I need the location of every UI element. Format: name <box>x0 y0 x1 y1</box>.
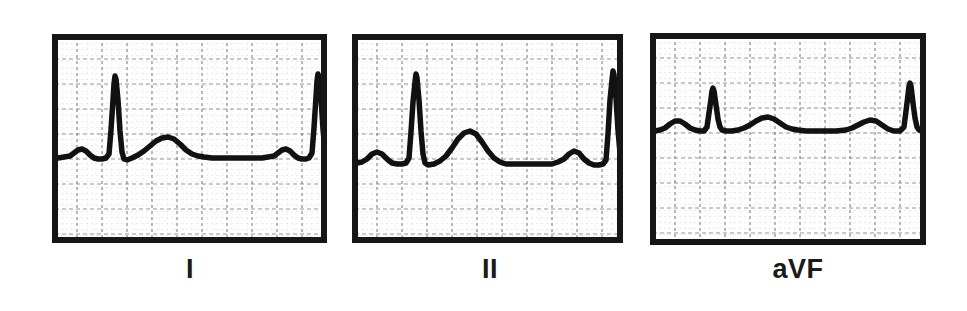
ecg-figure: IIIaVF <box>0 0 967 311</box>
lead-label-lead-avf: aVF <box>758 256 838 283</box>
lead-label-lead-ii: II <box>460 256 520 283</box>
ecg-panel-lead-avf <box>650 33 926 245</box>
ecg-trace-lead-ii <box>352 34 623 243</box>
lead-label-lead-i: I <box>160 256 220 283</box>
ecg-panel-lead-ii <box>352 34 623 243</box>
ecg-trace-lead-avf <box>650 33 926 245</box>
ecg-trace-lead-i <box>52 34 327 243</box>
ecg-panel-lead-i <box>52 34 327 243</box>
